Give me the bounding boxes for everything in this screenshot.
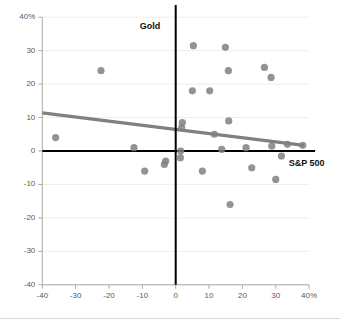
data-point	[52, 134, 59, 141]
sp500-axis-label: S&P 500	[289, 159, 325, 168]
data-point	[278, 152, 285, 159]
x-tick-label-40: 40%	[289, 292, 329, 300]
y-tick-label-20: 20	[26, 80, 35, 88]
data-point	[299, 142, 306, 149]
y-tick-label-30: 30	[26, 47, 35, 55]
tick-marks	[38, 17, 309, 289]
data-point	[248, 164, 255, 171]
y-tick-label-0: 0	[31, 147, 35, 155]
data-point	[284, 141, 291, 148]
data-point	[162, 157, 169, 164]
data-point	[218, 146, 225, 153]
data-point	[177, 147, 184, 154]
data-point	[177, 154, 184, 161]
data-point	[130, 144, 137, 151]
data-point	[267, 74, 274, 81]
data-point	[189, 87, 196, 94]
data-point	[97, 67, 104, 74]
data-points	[52, 42, 306, 208]
data-point	[261, 64, 268, 71]
y-tick-label-10: 10	[26, 114, 35, 122]
data-point	[206, 87, 213, 94]
data-point	[222, 44, 229, 51]
data-point	[268, 142, 275, 149]
data-point	[242, 144, 249, 151]
y-tick-label-40: 40%	[19, 13, 35, 21]
y-tick-label--40: -40	[24, 281, 36, 289]
data-point	[225, 117, 232, 124]
scatter-chart: Gold S&P 500 40%3020100-10-20-30-40-40-3…	[0, 0, 340, 319]
y-tick-label--20: -20	[24, 214, 36, 222]
data-point	[211, 131, 218, 138]
data-point	[199, 167, 206, 174]
data-point	[141, 167, 148, 174]
data-point	[272, 176, 279, 183]
data-point	[225, 67, 232, 74]
data-point	[179, 119, 186, 126]
data-point	[190, 42, 197, 49]
y-tick-label--30: -30	[24, 247, 36, 255]
data-point	[226, 201, 233, 208]
y-tick-label--10: -10	[24, 180, 36, 188]
gold-axis-label: Gold	[140, 22, 161, 31]
